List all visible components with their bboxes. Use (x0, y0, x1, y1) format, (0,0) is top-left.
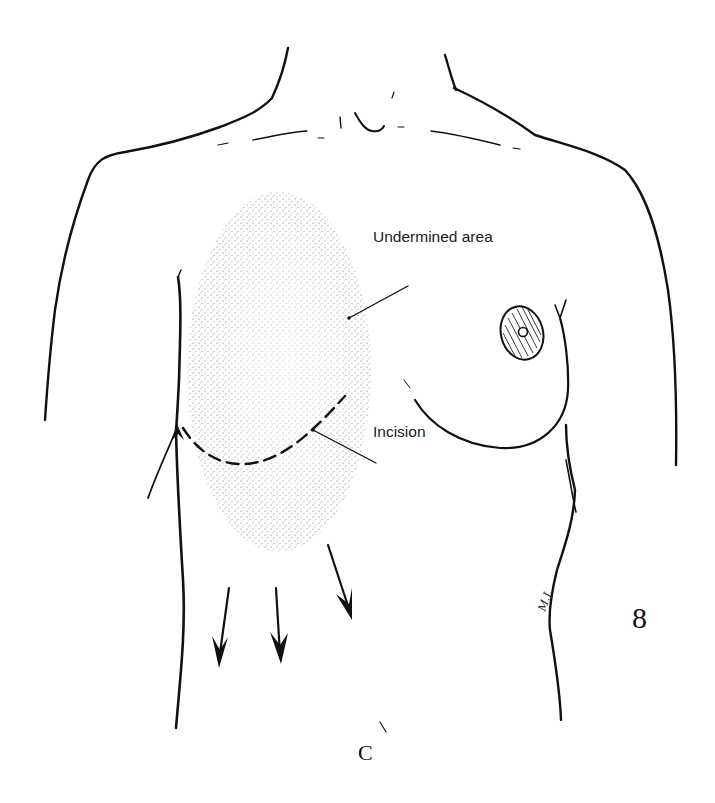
neck-right-outline (445, 55, 456, 90)
neck-left-outline (220, 48, 288, 127)
left-torso-upper-tip (178, 270, 181, 277)
breast-inner-hint (404, 380, 410, 388)
undermined-area-fade (215, 215, 355, 515)
incision-label: Incision (373, 423, 426, 440)
small-tick (380, 722, 386, 732)
arrow-3-shaft (328, 545, 350, 612)
suprasternal-notch (355, 113, 384, 131)
incision-arrowhead (172, 424, 184, 440)
notch-left-tick (340, 117, 341, 128)
right-clavicle-tick (513, 148, 520, 149)
stray-glyph: C (358, 740, 373, 765)
artist-signature: M.J. (535, 588, 555, 614)
breast-upper-tick (555, 300, 566, 318)
left-torso-outline (176, 277, 184, 728)
right-torso-outline (549, 425, 575, 720)
surgical-illustration: Undermined area Incision 8 C M.J. (0, 0, 715, 803)
breast-outline (415, 318, 568, 448)
notch-right-tick (392, 92, 394, 98)
left-clavicle-tick (218, 143, 228, 145)
arrow-1-head (212, 636, 228, 668)
figure-number: 8 (632, 601, 647, 634)
undermined-area-label: Undermined area (373, 228, 493, 245)
illustration-canvas: Undermined area Incision 8 C M.J. (0, 0, 715, 803)
undermined-area-leader-dot (347, 316, 351, 320)
left-clavicle (253, 131, 307, 140)
traction-arrows (212, 545, 352, 668)
nipple (519, 328, 528, 337)
incision-leader-dot (311, 428, 315, 432)
left-arm-inner-line (148, 430, 176, 498)
right-clavicle (431, 131, 500, 145)
